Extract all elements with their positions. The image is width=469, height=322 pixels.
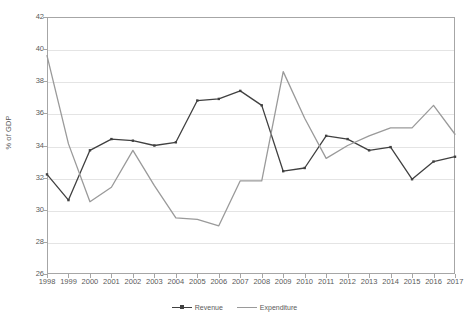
data-point-marker — [67, 199, 69, 201]
y-axis-tick-label: 38 — [14, 77, 44, 85]
data-point-marker — [411, 178, 413, 180]
legend-label: Expenditure — [260, 304, 297, 311]
x-axis-tick-mark — [305, 274, 306, 278]
x-axis-tick-mark — [283, 274, 284, 278]
series-line-revenue — [47, 91, 455, 200]
data-point-marker — [132, 139, 134, 141]
x-axis-tick-mark — [90, 274, 91, 278]
x-axis-tick-label: 2017 — [440, 278, 469, 286]
x-axis-tick-mark — [391, 274, 392, 278]
x-axis-tick-mark — [68, 274, 69, 278]
x-axis-tick-mark — [326, 274, 327, 278]
data-point-marker — [153, 144, 155, 146]
x-axis-tick-mark — [240, 274, 241, 278]
data-point-marker — [261, 104, 263, 106]
y-axis-tick-label: 28 — [14, 238, 44, 246]
data-point-marker — [325, 135, 327, 137]
x-axis-tick-mark — [455, 274, 456, 278]
x-axis-tick-mark — [176, 274, 177, 278]
legend-swatch-icon — [172, 303, 192, 311]
data-point-marker — [303, 167, 305, 169]
y-axis-tick-label: 42 — [14, 13, 44, 21]
x-axis-tick-mark — [47, 274, 48, 278]
data-point-marker — [239, 90, 241, 92]
data-point-marker — [282, 170, 284, 172]
data-point-marker — [368, 149, 370, 151]
data-point-marker — [46, 173, 48, 175]
data-point-marker — [175, 141, 177, 143]
x-axis-tick-mark — [197, 274, 198, 278]
chart-legend: RevenueExpenditure — [0, 303, 469, 311]
data-point-marker — [389, 146, 391, 148]
data-point-marker — [196, 99, 198, 101]
x-axis-tick-mark — [369, 274, 370, 278]
y-axis-tick-label: 40 — [14, 45, 44, 53]
data-point-marker — [432, 160, 434, 162]
data-point-marker — [89, 149, 91, 151]
legend-label: Revenue — [195, 304, 223, 311]
data-point-marker — [346, 138, 348, 140]
x-axis-tick-mark — [111, 274, 112, 278]
x-axis-tick-mark — [133, 274, 134, 278]
data-point-marker — [110, 138, 112, 140]
x-axis-tick-mark — [348, 274, 349, 278]
x-axis-tick-mark — [412, 274, 413, 278]
legend-item-expenditure[interactable]: Expenditure — [237, 303, 297, 311]
y-axis-title: % of GDP — [4, 103, 13, 163]
x-axis-tick-mark — [219, 274, 220, 278]
x-axis-tick-mark — [434, 274, 435, 278]
x-axis-tick-mark — [262, 274, 263, 278]
y-axis-tick-label: 36 — [14, 109, 44, 117]
x-axis-tick-mark — [154, 274, 155, 278]
data-point-marker — [218, 98, 220, 100]
y-axis-tick-label: 30 — [14, 206, 44, 214]
legend-swatch-icon — [237, 303, 257, 311]
data-point-marker — [454, 156, 456, 158]
data-series-layer — [47, 17, 455, 274]
y-axis-tick-label: 34 — [14, 142, 44, 150]
line-chart: % of GDP 424038363432302826 199819992000… — [0, 0, 469, 322]
legend-item-revenue[interactable]: Revenue — [172, 303, 223, 311]
y-axis-tick-label: 32 — [14, 174, 44, 182]
